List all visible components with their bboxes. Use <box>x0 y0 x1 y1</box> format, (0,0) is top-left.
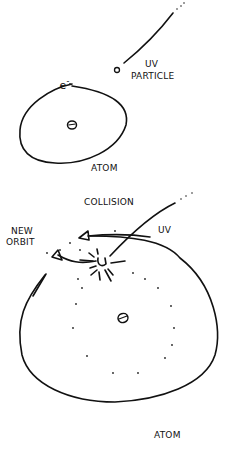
orbit-dots <box>46 230 175 374</box>
top-atom <box>20 83 127 163</box>
uv-trajectory-line <box>124 13 173 63</box>
new-orbit-arrows <box>52 231 150 262</box>
new-orbit-arrow-line <box>58 255 96 262</box>
particle-label: PARTICLE <box>131 71 174 81</box>
collision-title: COLLISION <box>84 197 134 207</box>
diagram-canvas <box>0 0 228 455</box>
new-orbit-label-line1: NEW <box>11 226 33 236</box>
electron-charge: - <box>66 77 69 86</box>
atom-label-bottom: ATOM <box>154 430 181 440</box>
nucleus-icon <box>117 312 129 324</box>
collision-atom <box>20 230 218 402</box>
nucleus-icon <box>68 121 77 129</box>
atom-orbit-small <box>20 84 127 163</box>
uv-label-top: UV <box>145 59 158 69</box>
orbit-fragment <box>33 274 46 296</box>
atom-label-top: ATOM <box>91 163 118 173</box>
electron-label: e- <box>52 67 69 91</box>
uv-particle-icon <box>115 68 120 73</box>
collision-burst-icon <box>80 249 125 281</box>
new-orbit-label-line2: ORBIT <box>6 237 35 247</box>
uv-label-bottom: UV <box>158 225 171 235</box>
arrowhead-icon <box>52 250 62 260</box>
